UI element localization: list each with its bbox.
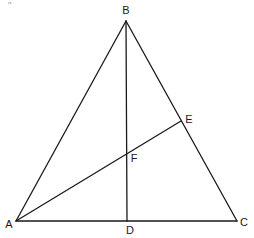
segment-ae: [16, 121, 181, 221]
diagram-canvas: [0, 0, 254, 238]
triangle-diagram: g A B C D E F: [0, 0, 254, 238]
point-label-d: D: [126, 225, 134, 236]
segment-ab: [16, 21, 126, 221]
vertex-label-c: C: [240, 217, 248, 228]
point-label-e: E: [185, 114, 192, 125]
segment-bd: [126, 21, 127, 221]
vertex-label-b: B: [122, 5, 129, 16]
cropped-figure-caption: g: [8, 0, 14, 4]
point-label-f: F: [131, 153, 138, 164]
vertex-label-a: A: [5, 219, 12, 230]
